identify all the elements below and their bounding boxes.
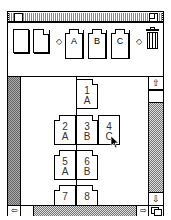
card-b-icon[interactable]: B [88, 29, 106, 59]
card-7[interactable]: 7 [54, 185, 76, 205]
arrow-left-icon[interactable]: ◇ [55, 38, 62, 45]
scroll-left-arrow-icon[interactable]: ⇦ [8, 206, 21, 216]
trash-lid [146, 29, 159, 31]
card-c-icon[interactable]: C [111, 29, 129, 59]
grow-box-front [154, 209, 162, 216]
blank-page-icon[interactable] [13, 29, 29, 53]
trash-icon[interactable] [146, 27, 159, 49]
vertical-scrollbar[interactable]: ⇧ ⇩ [148, 77, 163, 205]
close-box-icon[interactable] [14, 13, 23, 22]
scroll-up-arrow-icon[interactable]: ⇧ [149, 77, 163, 90]
card-corner [54, 115, 60, 121]
new-page-icon[interactable] [33, 29, 49, 53]
card-corner [54, 185, 60, 191]
title-bar[interactable] [8, 12, 163, 23]
card-corner [92, 185, 98, 191]
card-letter: B [77, 167, 97, 177]
card-number: 7 [55, 192, 75, 202]
arrow-right-icon[interactable]: ◇ [135, 38, 142, 45]
card-letter: B [77, 132, 97, 142]
header-band [8, 59, 163, 77]
card-letter: A [77, 96, 97, 106]
card-corner [92, 150, 98, 156]
card-letter: A [55, 132, 75, 142]
window: ◇ A B C ◇ 1 A 2 A [7, 11, 164, 216]
left-gutter [8, 77, 21, 205]
horizontal-scrollbar[interactable]: ⇦ ⇨ [8, 205, 149, 216]
card-8[interactable]: 8 [76, 185, 98, 205]
card-2[interactable]: 2 A [54, 115, 76, 145]
card-b-label: B [89, 37, 105, 46]
scroll-down-arrow-icon[interactable]: ⇩ [149, 192, 163, 205]
canvas-area[interactable]: 1 A 2 A 3 B 4 C 5 A 6 B 7 [8, 77, 149, 205]
zoom-box-icon[interactable] [149, 13, 158, 22]
card-corner [54, 150, 60, 156]
card-6[interactable]: 6 B [76, 150, 98, 180]
grow-box-icon[interactable] [148, 205, 163, 216]
card-letter: A [55, 167, 75, 177]
card-5[interactable]: 5 A [54, 150, 76, 180]
toolbar: ◇ A B C ◇ [8, 23, 163, 59]
card-corner [92, 79, 98, 85]
card-3[interactable]: 3 B [76, 115, 98, 145]
title-bar-stripes [9, 13, 162, 21]
card-a-label: A [66, 37, 82, 46]
arrow-cursor-icon [110, 135, 120, 149]
card-1[interactable]: 1 A [76, 79, 98, 109]
horizontal-scroll-thumb[interactable] [21, 206, 34, 216]
trash-can [147, 32, 158, 49]
card-number: 8 [77, 192, 97, 202]
card-c-label: C [112, 37, 128, 46]
vertical-scroll-thumb[interactable] [149, 90, 163, 103]
card-a-icon[interactable]: A [65, 29, 83, 59]
